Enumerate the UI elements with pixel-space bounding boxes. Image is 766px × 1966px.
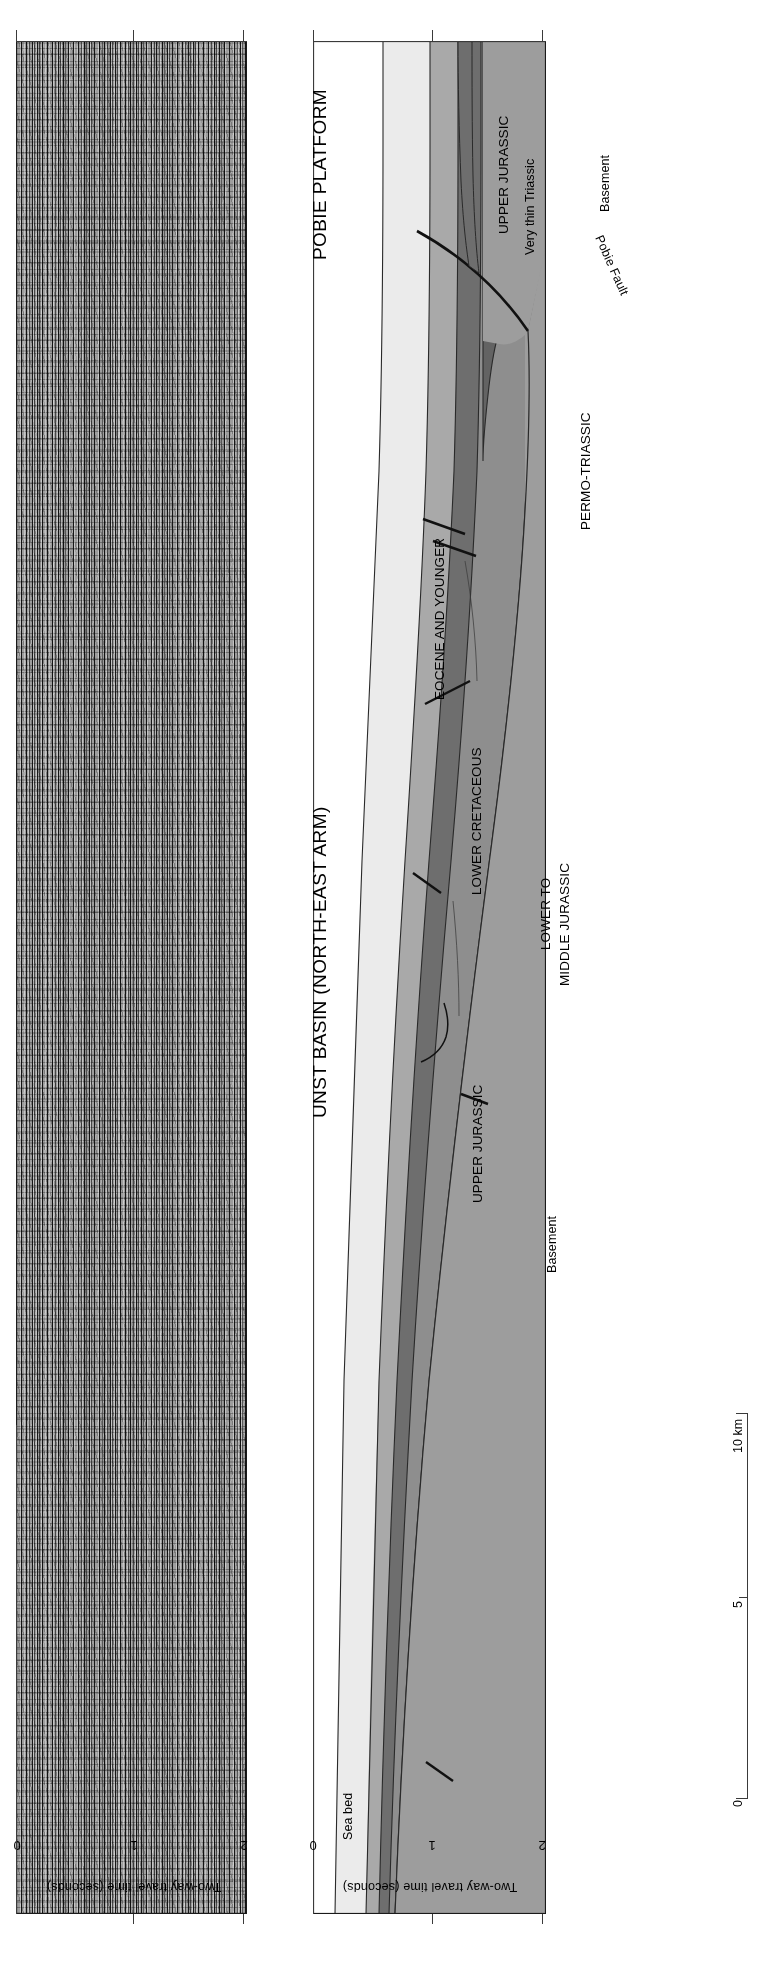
label-upper-jurassic-basin: UPPER JURASSIC: [470, 1085, 485, 1203]
scale-bar-tick-5: [739, 1597, 748, 1598]
label-lower-to-middle-jurassic-line2: MIDDLE JURASSIC: [557, 863, 572, 986]
label-permo-triassic: PERMO-TRIASSIC: [578, 412, 593, 530]
section-tick-label-0: 0: [306, 1838, 320, 1853]
label-lower-cretaceous: LOWER CRETACEOUS: [469, 747, 484, 895]
scale-bar-label-10km: 10 km: [731, 1419, 745, 1453]
seismic-tick-label-1: 1: [127, 1838, 141, 1853]
label-basement-basin: Basement: [545, 1216, 559, 1273]
scale-bar-tick-10: [736, 1413, 748, 1414]
geological-section-panel: [313, 41, 546, 1914]
section-tick-label-1: 1: [425, 1838, 439, 1853]
section-tick-label-2: 2: [535, 1838, 549, 1853]
cross-section-drawing: [313, 41, 546, 1914]
label-upper-jurassic-platform: UPPER JURASSIC: [496, 116, 511, 234]
seismic-section-panel: [16, 41, 247, 1914]
label-lower-to-middle-jurassic-line1: LOWER TO: [538, 878, 553, 950]
title-pobie-platform: POBIE PLATFORM: [309, 89, 331, 260]
seismic-axis-caption: Two-way travel time (seconds): [44, 1880, 224, 1894]
scale-bar-spine: [747, 1413, 748, 1799]
label-very-thin-triassic: Very thin Triassic: [523, 159, 537, 255]
section-axis-caption: Two-way travel time (seconds): [340, 1880, 520, 1894]
seismic-panel-frame: [16, 41, 247, 1914]
scale-bar-label-0: 0: [731, 1800, 745, 1807]
seismic-tick-label-2: 2: [237, 1838, 251, 1853]
label-sea-bed: Sea bed: [341, 1793, 355, 1840]
scale-bar-label-5: 5: [731, 1601, 745, 1608]
label-pobie-fault: Pobie Fault: [592, 233, 631, 297]
figure-root: 0 1 2 Two-way travel time (seconds): [0, 0, 766, 1966]
label-basement-platform: Basement: [598, 155, 612, 212]
title-unst-basin: UNST BASIN (NORTH-EAST ARM): [309, 806, 331, 1118]
label-eocene-and-younger: EOCENE AND YOUNGER: [432, 538, 447, 700]
